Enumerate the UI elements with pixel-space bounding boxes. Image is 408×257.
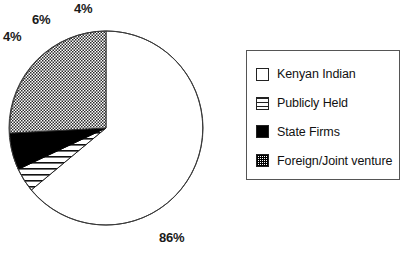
- legend-item-state-firms[interactable]: State Firms: [256, 119, 395, 145]
- gray-checker-square-icon: [256, 154, 269, 167]
- legend-item-label: Foreign/Joint venture: [277, 154, 392, 168]
- pie-chart-figure: 4% 6% 4% 86% Kenyan Indian Publicly Held…: [0, 0, 408, 257]
- legend-list: Kenyan Indian Publicly Held State Firms …: [256, 60, 395, 175]
- legend-item-foreign-joint-venture[interactable]: Foreign/Joint venture: [256, 148, 395, 174]
- figure-caption-cropped: [2, 249, 242, 257]
- legend-item-label: State Firms: [277, 125, 340, 139]
- white-square-icon: [256, 68, 269, 81]
- legend-item-label: Kenyan Indian: [277, 67, 356, 81]
- black-square-icon: [256, 125, 269, 138]
- legend-item-label: Publicly Held: [277, 96, 348, 110]
- pie-value-label-publicly-held: 4%: [3, 29, 21, 44]
- legend: Kenyan Indian Publicly Held State Firms …: [246, 50, 400, 180]
- pie-value-label-foreign-joint-venture: 4%: [74, 1, 92, 16]
- legend-item-kenyan-indian[interactable]: Kenyan Indian: [256, 61, 395, 87]
- pie-slice-foreign-joint-venture: [10, 31, 106, 133]
- horizontal-hatch-square-icon: [256, 97, 269, 110]
- pie-value-label-kenyan-indian: 86%: [159, 230, 184, 245]
- legend-item-publicly-held[interactable]: Publicly Held: [256, 90, 395, 116]
- pie-value-label-state-firms: 6%: [32, 12, 50, 27]
